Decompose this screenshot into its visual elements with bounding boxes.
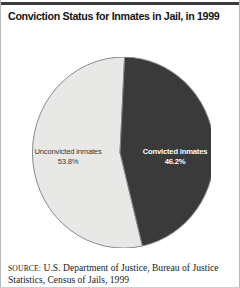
pie-label-unconvicted-percent: 53.8% [22, 157, 114, 167]
pie-label-convicted-percent: 46.2% [132, 157, 218, 167]
pie-label-convicted-name: Convicted inmates [143, 147, 207, 156]
source-label: Source: [8, 264, 41, 273]
chart-figure: Conviction Status for Inmates in Jail, i… [0, 0, 240, 288]
pie-label-unconvicted: Unconvicted inmates 53.8% [22, 147, 114, 167]
source-note: Source: U.S. Department of Justice, Bure… [8, 262, 240, 286]
source-text-line2: Statistics, Census of Jails, 1999 [8, 274, 240, 285]
pie-label-convicted: Convicted inmates 46.2% [132, 147, 218, 167]
page-title: Conviction Status for Inmates in Jail, i… [8, 10, 224, 23]
source-text-line1: U.S. Department of Justice, Bureau of Ju… [41, 262, 218, 273]
pie-label-unconvicted-name: Unconvicted inmates [34, 147, 101, 156]
top-rule-divider [1, 2, 240, 5]
